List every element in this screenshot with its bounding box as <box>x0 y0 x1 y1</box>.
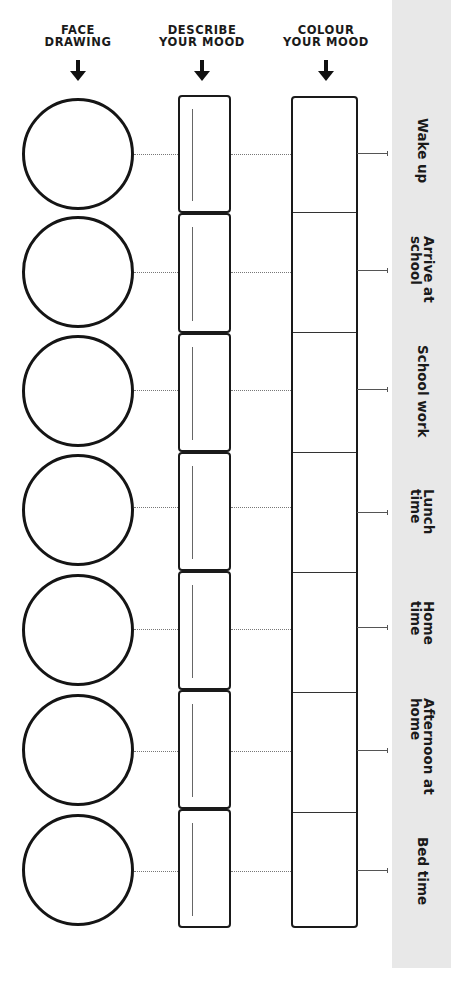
dotted-connector <box>134 629 178 630</box>
writing-line <box>192 109 193 201</box>
writing-line <box>192 466 193 559</box>
heading-line: DRAWING <box>18 36 138 48</box>
tick-connector <box>357 627 387 628</box>
describe-mood-box[interactable] <box>178 213 231 333</box>
tick-connector <box>357 270 387 271</box>
dotted-connector <box>231 272 291 273</box>
face-drawing-circle[interactable] <box>22 335 134 447</box>
face-drawing-circle[interactable] <box>22 814 134 926</box>
writing-line <box>192 347 193 440</box>
dotted-connector <box>231 507 291 508</box>
colour-mood-cell[interactable] <box>293 333 356 452</box>
label-line: time <box>409 601 422 645</box>
tick-connector <box>357 870 387 871</box>
dotted-connector <box>134 390 178 391</box>
colour-mood-column <box>291 96 358 928</box>
heading-line: YOUR MOOD <box>142 36 262 48</box>
mood-tracker-worksheet: FACE DRAWING DESCRIBE YOUR MOOD COLOUR Y… <box>0 0 473 983</box>
describe-mood-heading: DESCRIBE YOUR MOOD <box>142 24 262 48</box>
down-arrow-icon <box>70 60 86 82</box>
dotted-connector <box>134 751 178 752</box>
face-drawing-circle[interactable] <box>22 98 134 210</box>
writing-line <box>192 227 193 321</box>
writing-line <box>192 823 193 916</box>
label-line: Wake up <box>415 118 428 183</box>
down-arrow-icon <box>194 60 210 82</box>
tick-connector <box>357 389 387 390</box>
dotted-connector <box>134 154 178 155</box>
label-line: School work <box>415 345 428 438</box>
face-drawing-circle[interactable] <box>22 694 134 806</box>
dotted-connector <box>231 629 291 630</box>
label-line: home <box>409 698 422 795</box>
label-line: time <box>409 489 422 534</box>
writing-line <box>192 704 193 797</box>
face-drawing-circle[interactable] <box>22 454 134 566</box>
dotted-connector <box>231 390 291 391</box>
dotted-connector <box>231 751 291 752</box>
face-drawing-circle[interactable] <box>22 216 134 328</box>
label-line: school <box>409 236 422 303</box>
dotted-connector <box>134 871 178 872</box>
colour-mood-cell[interactable] <box>293 693 356 812</box>
colour-mood-cell[interactable] <box>293 573 356 692</box>
tick-connector <box>357 512 387 513</box>
describe-mood-box[interactable] <box>178 452 231 571</box>
face-drawing-circle[interactable] <box>22 574 134 686</box>
face-drawing-heading: FACE DRAWING <box>18 24 138 48</box>
writing-line <box>192 585 193 678</box>
describe-mood-box[interactable] <box>178 95 231 213</box>
dotted-connector <box>134 507 178 508</box>
label-line: Bed time <box>415 837 428 905</box>
tick-connector <box>357 153 387 154</box>
colour-mood-cell[interactable] <box>293 98 356 212</box>
dotted-connector <box>231 154 291 155</box>
describe-mood-box[interactable] <box>178 333 231 452</box>
heading-line: YOUR MOOD <box>266 36 386 48</box>
describe-mood-box[interactable] <box>178 690 231 809</box>
colour-mood-cell[interactable] <box>293 213 356 332</box>
colour-mood-cell[interactable] <box>293 813 356 926</box>
describe-mood-box[interactable] <box>178 809 231 928</box>
dotted-connector <box>231 871 291 872</box>
tick-connector <box>357 750 387 751</box>
dotted-connector <box>134 272 178 273</box>
colour-mood-heading: COLOUR YOUR MOOD <box>266 24 386 48</box>
down-arrow-icon <box>318 60 334 82</box>
colour-mood-cell[interactable] <box>293 453 356 572</box>
describe-mood-box[interactable] <box>178 571 231 690</box>
